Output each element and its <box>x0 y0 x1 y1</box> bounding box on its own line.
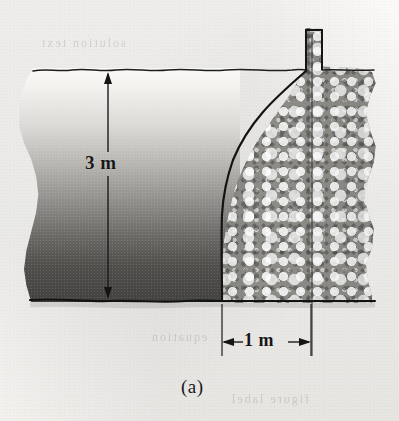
ground-shadow <box>30 303 375 305</box>
dim-vertical-arrowhead-bottom <box>104 287 112 299</box>
dim-horizontal-arrowhead-left <box>222 338 234 346</box>
water-surface-line-right <box>322 70 374 71</box>
crest-post-outline <box>306 30 322 70</box>
linework-layer <box>0 0 399 421</box>
wall-upstream-curve <box>222 71 306 301</box>
dim-horizontal-arrowhead-right <box>299 338 311 346</box>
dimension-label-base-width: 1 m <box>244 330 274 351</box>
dimension-label-water-depth: 3 m <box>85 152 117 174</box>
water-surface-line <box>33 69 307 71</box>
dim-vertical-arrowhead-top <box>104 72 112 84</box>
figure-canvas: solution text equation figure label <box>0 0 399 421</box>
figure-caption: (a) <box>181 376 204 398</box>
